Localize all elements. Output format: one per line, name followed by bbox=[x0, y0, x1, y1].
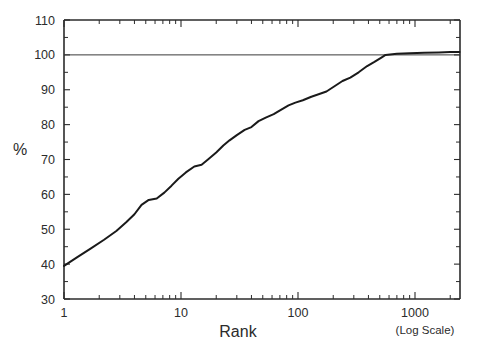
x-tick-label: 10 bbox=[174, 306, 188, 320]
y-tick-label: 100 bbox=[34, 48, 55, 62]
y-tick-label: 60 bbox=[41, 188, 55, 202]
y-axis-ticks-right bbox=[454, 20, 460, 299]
x-axis-ticks bbox=[64, 292, 450, 299]
y-tick-label: 90 bbox=[41, 83, 55, 97]
x-tick-label: 1000 bbox=[401, 306, 429, 320]
plot-frame bbox=[64, 20, 460, 299]
chart-canvas: 30405060708090100110 1101001000 % Rank (… bbox=[0, 0, 480, 351]
y-axis-label: % bbox=[13, 141, 27, 158]
y-tick-label: 80 bbox=[41, 118, 55, 132]
y-tick-label: 70 bbox=[41, 153, 55, 167]
x-axis-ticks-top bbox=[64, 20, 450, 27]
data-curve-cumulative-percent bbox=[64, 52, 459, 266]
x-axis-label: Rank bbox=[219, 323, 257, 340]
x-axis-scale-note: (Log Scale) bbox=[396, 324, 455, 336]
y-tick-label: 30 bbox=[41, 293, 55, 307]
y-axis-ticks bbox=[64, 20, 70, 299]
y-tick-label: 50 bbox=[41, 223, 55, 237]
x-tick-label: 100 bbox=[288, 306, 309, 320]
y-tick-label: 40 bbox=[41, 258, 55, 272]
y-axis-tick-labels: 30405060708090100110 bbox=[34, 14, 55, 307]
x-tick-label: 1 bbox=[61, 306, 68, 320]
y-tick-label: 110 bbox=[35, 14, 55, 28]
chart-figure: 30405060708090100110 1101001000 % Rank (… bbox=[0, 0, 480, 351]
x-axis-tick-labels: 1101001000 bbox=[61, 306, 429, 320]
